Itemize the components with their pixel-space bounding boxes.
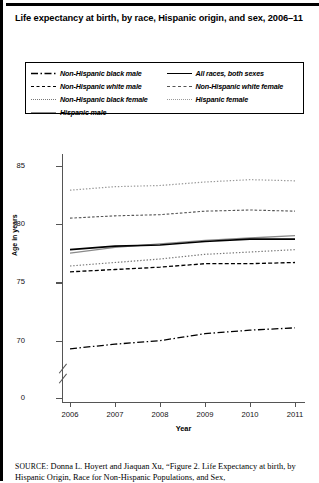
legend-item-label: Non-Hispanic black female <box>60 95 148 104</box>
source-prefix: SOURCE: <box>15 462 48 471</box>
legend-line-swatch-icon <box>31 108 56 117</box>
legend-right-item[interactable]: All races, both sexes <box>167 67 304 80</box>
legend-item-label: Non-Hispanic black male <box>60 69 142 78</box>
x-axis-tick-label: 2008 <box>140 410 180 419</box>
legend-item-label: Hispanic female <box>196 95 248 104</box>
legend-right-item[interactable]: Non-Hispanic white female <box>167 80 304 93</box>
y-axis-tick <box>56 341 62 342</box>
x-axis-tick <box>160 402 161 407</box>
x-axis-tick <box>70 402 71 407</box>
source-text: Donna L. Hoyert and Jiaquan Xu, “Figure … <box>51 462 266 471</box>
x-axis-label: Year <box>62 424 305 433</box>
y-axis-tick-label: 70 <box>0 336 25 345</box>
legend-right-item[interactable]: Hispanic female <box>167 93 304 106</box>
legend-item-label: All races, both sexes <box>196 69 264 78</box>
y-axis-tick-label: 80 <box>0 219 25 228</box>
legend-line-swatch-icon <box>167 69 192 78</box>
legend-line-swatch-icon <box>31 95 56 104</box>
series-line <box>70 263 295 272</box>
series-line <box>70 328 295 349</box>
legend-left-item[interactable]: Hispanic male <box>31 106 165 119</box>
series-line <box>70 180 295 191</box>
plot-area: Age in years Year 0707580852006200720082… <box>29 140 309 430</box>
y-axis-tick-label: 75 <box>0 277 25 286</box>
x-axis-tick-label: 2010 <box>230 410 270 419</box>
source-note: SOURCE: Donna L. Hoyert and Jiaquan Xu, … <box>15 462 315 483</box>
y-axis-tick <box>56 398 62 399</box>
legend-line-swatch-icon <box>167 95 192 104</box>
x-axis-tick <box>250 402 251 407</box>
legend-column-right: All races, both sexesNon-Hispanic white … <box>165 63 304 113</box>
legend-item-label: Non-Hispanic white female <box>196 82 284 91</box>
x-axis-tick <box>115 402 116 407</box>
y-axis-tick <box>56 224 62 225</box>
x-axis-tick-label: 2011 <box>275 410 315 419</box>
legend-item-label: Hispanic male <box>60 108 106 117</box>
legend-item-label: Non-Hispanic white male <box>60 82 142 91</box>
series-line <box>70 239 295 250</box>
legend-column-left: Non-Hispanic black maleNon-Hispanic whit… <box>26 63 165 113</box>
x-axis-tick-label: 2006 <box>50 410 90 419</box>
y-axis-tick-label: 85 <box>0 161 25 170</box>
x-axis-tick-label: 2007 <box>95 410 135 419</box>
chart-lines <box>29 140 309 430</box>
series-line <box>70 210 295 218</box>
legend-line-swatch-icon <box>31 82 56 91</box>
top-rule <box>6 3 319 6</box>
y-axis-tick <box>56 282 62 283</box>
y-axis-tick <box>56 166 62 167</box>
legend-left-item[interactable]: Non-Hispanic black female <box>31 93 165 106</box>
series-line <box>70 236 295 254</box>
chart-legend: Non-Hispanic black maleNon-Hispanic whit… <box>25 62 304 114</box>
legend-left-item[interactable]: Non-Hispanic black male <box>31 67 165 80</box>
y-axis-tick-label: 0 <box>0 393 25 402</box>
x-axis-tick <box>205 402 206 407</box>
legend-line-swatch-icon <box>31 69 56 78</box>
x-axis-tick <box>295 402 296 407</box>
figure-title: Life expectancy at birth, by race, Hispa… <box>15 12 309 24</box>
x-axis-tick-label: 2009 <box>185 410 225 419</box>
series-line <box>70 250 295 266</box>
legend-left-item[interactable]: Non-Hispanic white male <box>31 80 165 93</box>
legend-line-swatch-icon <box>167 82 192 91</box>
